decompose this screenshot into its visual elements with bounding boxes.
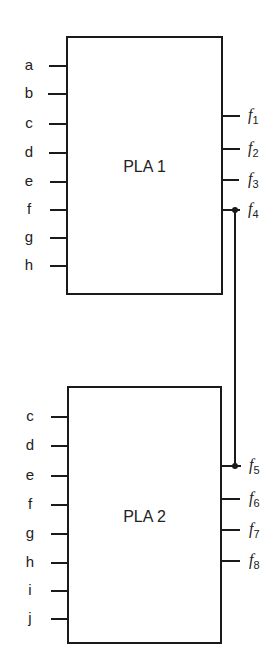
pla2-input-label: e bbox=[23, 467, 37, 482]
pla1-input-label: e bbox=[22, 173, 36, 188]
output-sub: 1 bbox=[252, 114, 258, 126]
pla2-input-label: f bbox=[23, 496, 37, 511]
pla1-input-label: g bbox=[22, 229, 36, 244]
pla1-input-label: f bbox=[22, 201, 36, 216]
pla2-output-label: f7 bbox=[249, 521, 260, 540]
output-sub: 5 bbox=[253, 464, 259, 476]
pla2-output-label: f5 bbox=[249, 457, 260, 476]
pla1-output-label: f1 bbox=[248, 107, 259, 126]
output-sub: 6 bbox=[253, 497, 259, 509]
pla1-output-label: f4 bbox=[248, 201, 259, 220]
pla1-title: PLA 1 bbox=[67, 158, 222, 176]
junction-dot-f4 bbox=[232, 207, 238, 213]
output-sub: 7 bbox=[253, 528, 259, 540]
output-sub: 8 bbox=[253, 559, 259, 571]
pla1-output-pins bbox=[222, 116, 240, 210]
pla2-output-label: f6 bbox=[249, 490, 260, 509]
pla1-output-label: f3 bbox=[248, 171, 259, 190]
pla2-input-label: c bbox=[23, 408, 37, 423]
pla1-input-label: b bbox=[22, 85, 36, 100]
pla2-input-label: h bbox=[23, 554, 37, 569]
pla2-output-label: f8 bbox=[249, 552, 260, 571]
pla2-output-pins bbox=[221, 466, 241, 561]
pla2-input-pins bbox=[51, 417, 68, 619]
pla-diagram bbox=[0, 0, 276, 668]
pla1-input-label: d bbox=[22, 144, 36, 159]
pla1-input-pins bbox=[48, 66, 67, 266]
pla1-input-label: a bbox=[22, 57, 36, 72]
output-sub: 3 bbox=[252, 178, 258, 190]
pla2-input-label: g bbox=[23, 525, 37, 540]
output-sub: 2 bbox=[252, 147, 258, 159]
pla1-input-label: c bbox=[22, 115, 36, 130]
pla2-input-label: d bbox=[23, 437, 37, 452]
pla1-output-label: f2 bbox=[248, 140, 259, 159]
pla2-input-label: j bbox=[23, 610, 37, 625]
pla2-input-label: i bbox=[23, 582, 37, 597]
output-sub: 4 bbox=[252, 208, 258, 220]
pla1-input-label: h bbox=[22, 257, 36, 272]
pla2-title: PLA 2 bbox=[68, 508, 221, 526]
